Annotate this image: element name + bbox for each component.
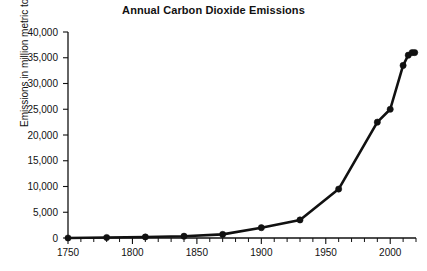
chart-container: Annual Carbon Dioxide Emissions Emission… [0, 0, 427, 271]
data-point-marker [104, 234, 110, 240]
x-tick-label: 1800 [121, 247, 144, 258]
data-point-marker [181, 233, 187, 239]
x-tick-label: 2000 [379, 247, 402, 258]
y-tick-label: 10,000 [27, 181, 58, 192]
data-point-marker [374, 119, 380, 125]
series-line [68, 53, 415, 238]
data-point-marker [387, 106, 393, 112]
y-axis-ticks: 05,00010,00015,00020,00025,00030,00035,0… [27, 27, 68, 244]
y-tick-label: 30,000 [27, 78, 58, 89]
y-tick-label: 5,000 [33, 207, 58, 218]
y-tick-label: 20,000 [27, 130, 58, 141]
data-point-marker [400, 62, 406, 68]
data-point-marker [142, 234, 148, 240]
data-point-marker [412, 50, 418, 56]
x-tick-label: 1850 [186, 247, 209, 258]
y-tick-label: 0 [52, 233, 58, 244]
y-tick-label: 15,000 [27, 155, 58, 166]
x-tick-label: 1900 [250, 247, 273, 258]
y-tick-label: 35,000 [27, 52, 58, 63]
x-tick-label: 1950 [315, 247, 338, 258]
x-axis-ticks: 175018001850190019502000 [57, 238, 416, 258]
data-point-marker [65, 235, 71, 241]
y-tick-label: 25,000 [27, 104, 58, 115]
data-point-marker [258, 225, 264, 231]
y-tick-label: 40,000 [27, 27, 58, 38]
data-point-marker [220, 231, 226, 237]
x-tick-label: 1750 [57, 247, 80, 258]
data-point-marker [336, 186, 342, 192]
plot-area: 05,00010,00015,00020,00025,00030,00035,0… [0, 0, 427, 271]
data-point-marker [297, 217, 303, 223]
